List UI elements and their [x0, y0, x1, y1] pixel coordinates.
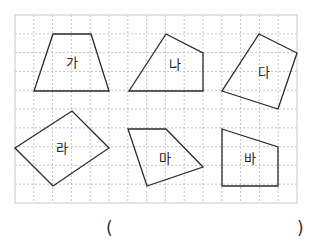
answer-close-paren: ): [297, 220, 304, 237]
quadrilateral-shape: 가: [34, 34, 109, 91]
shape-label: 마: [159, 151, 171, 166]
shape-label: 라: [56, 141, 68, 156]
shapes-layer: 가나다라마바: [15, 34, 297, 186]
quadrilateral-shape: 라: [15, 111, 109, 186]
answer-open-paren: (: [106, 220, 113, 237]
shape-label: 나: [169, 57, 181, 72]
shape-label: 가: [66, 55, 78, 70]
quadrilateral-shape: 마: [128, 129, 203, 186]
dotted-grid: [15, 15, 297, 203]
quadrilateral-grid-figure: 가나다라마바: [0, 0, 313, 246]
quadrilateral-shape: 다: [222, 34, 297, 109]
quadrilateral-shape: 바: [222, 129, 278, 186]
quadrilateral-shape: 나: [129, 34, 203, 91]
shape-label: 바: [244, 151, 256, 166]
shape-label: 다: [258, 65, 270, 80]
shape-outline: [129, 34, 203, 91]
